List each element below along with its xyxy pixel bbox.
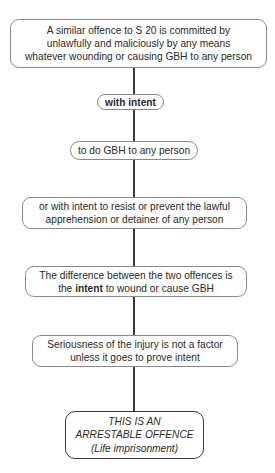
node-similar-offence: A similar offence to S 20 is committed b… xyxy=(10,19,267,68)
node-line: unless it goes to prove intent xyxy=(47,351,223,364)
emphasis-intent: intent xyxy=(75,283,103,294)
connector-6-7 xyxy=(133,367,135,411)
node-line: ARRESTABLE OFFENCE xyxy=(75,428,193,442)
node-difference-intent: The difference between the two offences … xyxy=(25,266,247,297)
page-running-header: OFFENCES AGAINST THE PERSON ACT 1861 xyxy=(0,0,183,2)
connector-3-4 xyxy=(133,160,135,197)
node-line: whatever wounding or causing GBH to any … xyxy=(25,50,252,63)
node-seriousness-injury: Seriousness of the injury is not a facto… xyxy=(32,335,238,367)
connector-1-2 xyxy=(133,68,135,94)
node-line: (Life imprisonment) xyxy=(75,442,193,456)
node-line: to do GBH to any person xyxy=(78,144,190,157)
node-with-intent: with intent xyxy=(97,94,164,110)
node-line: or with intent to resist or prevent the … xyxy=(39,200,230,213)
node-resist-apprehension: or with intent to resist or prevent the … xyxy=(22,197,247,229)
node-line: A similar offence to S 20 is committed b… xyxy=(25,24,252,37)
connector-5-6 xyxy=(133,297,135,335)
node-arrestable-offence: THIS IS AN ARRESTABLE OFFENCE (Life impr… xyxy=(65,411,204,459)
node-line: THIS IS AN xyxy=(75,415,193,429)
node-line: apprehension or detainer of any person xyxy=(39,213,230,226)
node-gbh-any-person: to do GBH to any person xyxy=(70,141,198,160)
connector-4-5 xyxy=(133,229,135,266)
node-line: the intent to wound or cause GBH xyxy=(39,282,232,295)
node-line: unlawfully and maliciously by any means xyxy=(25,37,252,50)
node-line: with intent xyxy=(105,96,156,109)
connector-2-3 xyxy=(133,109,135,141)
node-line: Seriousness of the injury is not a facto… xyxy=(47,338,223,351)
node-line: The difference between the two offences … xyxy=(39,269,232,282)
